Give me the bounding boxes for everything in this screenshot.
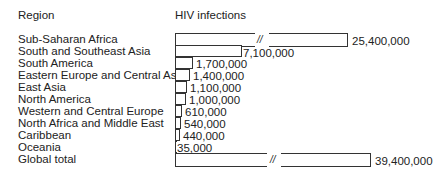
row-label: Oceania: [18, 141, 61, 153]
row-label: Eastern Europe and Central Asia: [18, 69, 186, 81]
row-label: East Asia: [18, 81, 66, 93]
value-label: 7,100,000: [243, 47, 294, 59]
infections-column-header: HIV infections: [175, 9, 246, 21]
row-label: Western and Central Europe: [18, 105, 164, 117]
row-label: South America: [18, 57, 93, 69]
row-label: Sub-Saharan Africa: [18, 33, 118, 45]
value-label: 25,400,000: [352, 35, 410, 47]
row-label: Global total: [18, 153, 76, 165]
bar-south-southeast-asia: [175, 45, 242, 57]
bar-caribbean: [175, 129, 180, 141]
bar-eastern-europe-central-asia: [175, 69, 190, 81]
value-label: 1,700,000: [196, 58, 247, 70]
row-label: North Africa and Middle East: [18, 117, 164, 129]
value-label: 1,000,000: [189, 94, 240, 106]
row-label: Caribbean: [18, 129, 71, 141]
break-marker: //: [257, 34, 263, 45]
value-label: 1,400,000: [193, 70, 244, 82]
row-label: South and Southeast Asia: [18, 45, 150, 57]
bar-western-central-europe: [175, 105, 182, 117]
value-label: 610,000: [185, 106, 227, 118]
value-label: 540,000: [184, 118, 226, 130]
bar-south-america: [175, 57, 193, 69]
bar-north-africa-middle-east: [175, 117, 181, 129]
region-column-header: Region: [18, 9, 54, 21]
break-marker: //: [270, 154, 276, 165]
value-label: 440,000: [183, 130, 225, 142]
value-label: 39,400,000: [375, 155, 433, 167]
value-label: 1,100,000: [190, 82, 241, 94]
bar-east-asia: [175, 81, 187, 93]
bar-north-america: [175, 93, 186, 105]
row-label: North America: [18, 93, 91, 105]
